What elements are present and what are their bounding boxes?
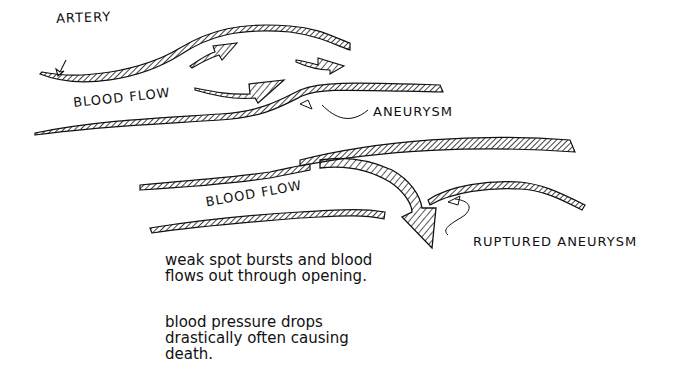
outflow-arrow	[320, 158, 436, 248]
aneurysm-pointer-arrow	[300, 100, 368, 118]
rupture-pointer-arrow	[446, 196, 469, 235]
flow-arrow-right	[296, 58, 344, 74]
artery-label: ARTERY	[56, 9, 112, 26]
artery-upper-wall	[40, 25, 350, 82]
flow-arrow-small	[190, 43, 237, 68]
note-blood-pressure: blood pressure drops drastically often c…	[165, 314, 380, 362]
ruptured-aneurysm-label: RUPTURED ANEURYSM	[473, 234, 637, 249]
note-weak-spot: weak spot bursts and blood flows out thr…	[165, 252, 380, 284]
artery-pointer-arrow	[56, 60, 66, 76]
ruptured-wall-fragment	[428, 182, 585, 210]
ruptured-artery-lower-wall	[150, 210, 385, 233]
aneurysm-label: ANEURYSM	[373, 104, 453, 119]
flow-arrow-large	[195, 80, 284, 103]
